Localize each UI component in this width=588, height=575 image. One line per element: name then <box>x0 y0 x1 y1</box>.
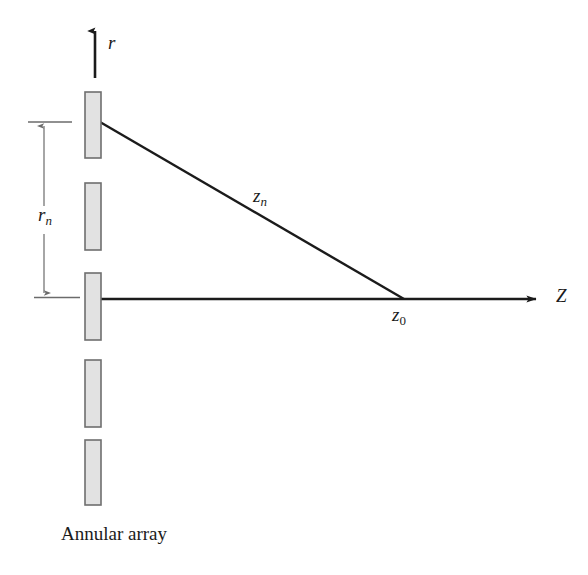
diagram-canvas <box>0 0 588 575</box>
array-element <box>85 273 101 340</box>
radius-label-subscript: n <box>45 213 52 228</box>
array-element <box>85 183 101 250</box>
array-element <box>85 440 101 505</box>
slant-range-line-zn <box>100 122 404 299</box>
radius-label-rn: rn <box>38 205 52 227</box>
annular-array-elements <box>85 92 101 505</box>
figure-caption: Annular array <box>61 524 167 543</box>
focal-point-label-z0: z0 <box>392 305 406 327</box>
annular-array-diagram: r rn zn z0 Z Annular array <box>0 0 588 575</box>
focal-point-label-subscript: 0 <box>399 313 406 328</box>
array-element <box>85 92 101 158</box>
slant-range-label-zn: zn <box>253 186 267 208</box>
array-element <box>85 360 101 427</box>
radial-axis-label: r <box>108 33 115 52</box>
slant-range-label-subscript: n <box>260 194 267 209</box>
propagation-axis-label: Z <box>556 286 567 305</box>
